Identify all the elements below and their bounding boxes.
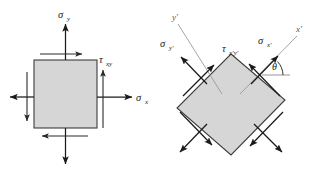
sigma-y-label: σ bbox=[58, 9, 64, 20]
sigma-yprime-upper-left-arrow bbox=[181, 57, 207, 84]
tau-xy-label: τ bbox=[99, 54, 104, 65]
sigma-xprime-lower-left-arrow bbox=[180, 124, 207, 152]
stress-figure-canvas: σ y σ x τ xy bbox=[0, 0, 315, 183]
sigma-yprime-label-subscript: y′ bbox=[168, 44, 174, 52]
tau-xy-label-subscript: xy bbox=[105, 60, 113, 68]
left-stress-element-group: σ y σ x τ xy bbox=[10, 9, 149, 164]
sigma-xprime-label-subscript: x′ bbox=[266, 41, 272, 49]
theta-arc bbox=[278, 62, 284, 76]
y-prime-axis-label: y′ bbox=[171, 12, 179, 22]
y-prime-axis-line bbox=[178, 24, 222, 94]
sigma-yprime-label: σ bbox=[160, 38, 166, 49]
tau-xprime-yprime-label-subscript: x′y′ bbox=[228, 49, 239, 57]
right-stress-element-group: y′ x′ σ y′ σ x′ τ x′y′ θ bbox=[160, 12, 303, 155]
sigma-x-label-subscript: x bbox=[144, 98, 149, 106]
sigma-y-label-subscript: y bbox=[66, 15, 71, 23]
sigma-xprime-label: σ bbox=[258, 35, 264, 46]
sigma-x-label: σ bbox=[136, 92, 142, 103]
tau-xprime-yprime-label: τ bbox=[222, 43, 227, 54]
stress-transformation-figure: σ y σ x τ xy bbox=[0, 0, 315, 183]
theta-label: θ bbox=[272, 61, 277, 72]
x-prime-axis-label: x′ bbox=[295, 24, 303, 34]
stress-element-square bbox=[34, 60, 97, 128]
